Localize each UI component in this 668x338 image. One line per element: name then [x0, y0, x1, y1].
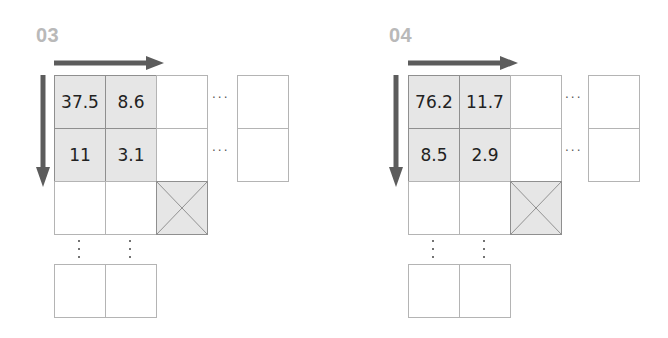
cell-value: 2.9 [460, 145, 510, 165]
cross-icon [511, 182, 561, 234]
matrix-cell-empty [408, 181, 460, 235]
matrix-cell-last-col [588, 75, 640, 129]
matrix-cell-last-row [408, 264, 460, 318]
cell-value: 8.5 [409, 145, 459, 165]
horizontal-ellipsis: ··· [565, 144, 582, 158]
vertical-ellipsis [432, 240, 436, 264]
matrix-cell-last-row [459, 264, 511, 318]
matrix-cell-empty [510, 128, 562, 182]
matrix-cell-last-col [588, 128, 640, 182]
matrix-cell: 2.9 [459, 128, 511, 182]
diagonal-crossed-cell [510, 181, 562, 235]
matrix-panel-04: 04 76.2 11.7 ··· 8.5 2.9 ··· [0, 0, 334, 338]
horizontal-ellipsis: ··· [565, 91, 582, 105]
vertical-arrow-icon [389, 75, 405, 189]
matrix-cell: 8.5 [408, 128, 460, 182]
horizontal-arrow-icon [408, 55, 520, 71]
matrix-cell: 11.7 [459, 75, 511, 129]
matrix-cell-empty [510, 75, 562, 129]
panel-label: 04 [389, 24, 412, 47]
matrix-cell: 76.2 [408, 75, 460, 129]
cell-value: 76.2 [409, 92, 459, 112]
cell-value: 11.7 [460, 92, 510, 112]
matrix-cell-empty [459, 181, 511, 235]
vertical-ellipsis [483, 240, 487, 264]
